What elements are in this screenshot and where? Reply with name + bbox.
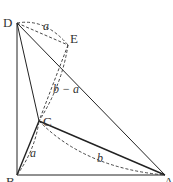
label-seg-DE: a bbox=[43, 19, 49, 33]
segment-DA bbox=[17, 23, 165, 175]
label-seg-CA: b bbox=[97, 151, 103, 165]
segment-CA bbox=[39, 121, 165, 175]
label-seg-EC: b − a bbox=[53, 82, 79, 96]
label-B: B bbox=[6, 174, 15, 182]
label-E: E bbox=[70, 31, 78, 46]
label-C: C bbox=[43, 114, 52, 129]
geometry-diagram: D E C B A a b − a a b bbox=[0, 0, 173, 182]
label-A: A bbox=[164, 174, 173, 182]
segment-DC bbox=[17, 23, 39, 121]
label-seg-BC: a bbox=[30, 146, 36, 160]
label-D: D bbox=[3, 15, 12, 30]
